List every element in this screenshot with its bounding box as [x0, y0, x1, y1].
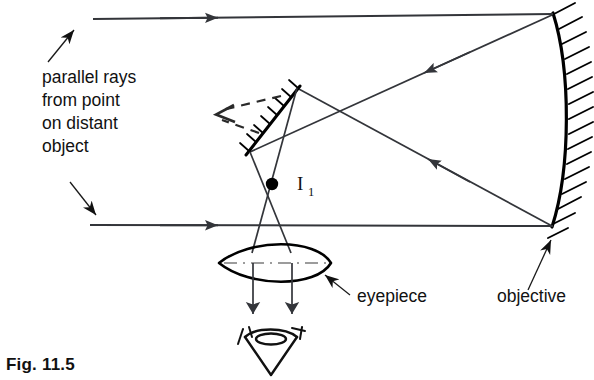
objective-label: objective	[497, 286, 566, 306]
pointer-to-top-ray	[48, 30, 74, 62]
reflected-ray-bottom	[297, 88, 552, 226]
eye-lash-right-inner	[300, 327, 302, 339]
intermediate-image-point	[266, 178, 278, 190]
pointer-to-bottom-ray	[70, 182, 96, 215]
eye-lower-cone	[245, 337, 297, 375]
eye-lash-left-outer	[238, 329, 243, 344]
reflected-rays	[250, 15, 552, 226]
pointer-to-eyepiece	[325, 275, 350, 295]
source-label-line-2: from point	[42, 90, 120, 110]
pointer-to-objective	[528, 240, 551, 290]
objective-mirror	[548, 3, 593, 238]
reflected-ray-top-arrow	[424, 52, 470, 73]
incoming-ray-bottom	[90, 225, 553, 226]
eye-iris	[256, 334, 286, 345]
image-point-label-subscript: 1	[308, 185, 314, 199]
observer-eye	[238, 327, 305, 375]
image-point-label: I	[297, 173, 303, 194]
eye-lash-right-outer	[292, 328, 305, 331]
incoming-ray-top-arrow	[160, 18, 218, 19]
eyepiece-label: eyepiece	[357, 286, 427, 306]
source-label-line-3: on distant	[42, 113, 118, 133]
dashed-virtual-ray-lower	[222, 120, 259, 133]
virtual-ray-construction	[216, 96, 281, 133]
figure-container: parallel rays from point on distant obje…	[0, 0, 594, 380]
reflected-ray-top	[250, 15, 552, 152]
secondary-mirror-surface	[246, 86, 300, 155]
eyepiece-lens	[219, 244, 331, 282]
text-labels: parallel rays from point on distant obje…	[6, 67, 566, 374]
exit-rays	[253, 263, 292, 314]
figure-caption: Fig. 11.5	[6, 355, 75, 374]
objective-mirror-surface	[552, 13, 566, 227]
reflected-ray-bottom-arrow	[428, 159, 470, 182]
optics-ray-diagram: parallel rays from point on distant obje…	[0, 0, 594, 380]
source-label-line-4: object	[42, 136, 89, 156]
objective-hatching	[548, 3, 593, 238]
source-label-line-1: parallel rays	[42, 67, 137, 87]
